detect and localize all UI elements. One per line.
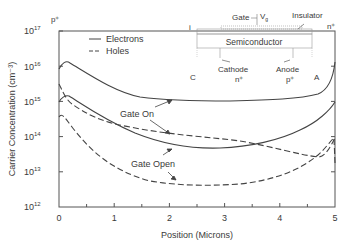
inset-label-cathode: Cathode — [218, 65, 249, 74]
svg-text:3: 3 — [222, 213, 227, 223]
inset-label-vg: Vg — [260, 12, 268, 22]
inset-label-c: C — [190, 73, 196, 82]
y-axis-label: Carrier Concentration (cm⁻³) — [7, 62, 17, 177]
inset-device-diagram: Gate Vg Insulator i Semiconductor Cathod… — [189, 11, 323, 84]
inset-label-i: i — [189, 23, 191, 32]
legend: Electrons Holes — [89, 34, 144, 56]
legend-label-electrons: Electrons — [106, 34, 144, 44]
y-tick-labels: 1012 1013 1014 1015 1016 1017 — [24, 25, 41, 212]
inset-label-cathode-type: n⁺ — [235, 75, 243, 84]
svg-text:0: 0 — [56, 213, 61, 223]
svg-text:2: 2 — [167, 213, 172, 223]
corner-label-left: p⁺ — [51, 15, 59, 24]
series-holes-gate-open — [59, 115, 335, 185]
svg-text:1: 1 — [112, 213, 117, 223]
svg-text:1015: 1015 — [24, 96, 41, 107]
svg-text:5: 5 — [332, 213, 337, 223]
annotation-gate-on: Gate On — [120, 109, 154, 119]
inset-label-semiconductor: Semiconductor — [226, 37, 283, 47]
inset-label-anode: Anode — [276, 65, 300, 74]
chart-canvas: 1012 1013 1014 1015 1016 1017 0 1 2 3 4 … — [0, 0, 354, 247]
x-ticks — [87, 203, 308, 207]
corner-label-right: n⁺ — [327, 22, 335, 31]
x-axis-label: Position (Microns) — [161, 230, 233, 240]
x-tick-labels: 0 1 2 3 4 5 — [56, 213, 337, 223]
inset-label-anode-type: p⁺ — [286, 75, 294, 84]
legend-label-holes: Holes — [106, 46, 130, 56]
series-electrons-gate-open — [59, 96, 335, 148]
svg-text:1017: 1017 — [24, 25, 41, 36]
svg-text:1016: 1016 — [24, 61, 41, 72]
inset-label-a: A — [314, 73, 320, 82]
inset-label-gate: Gate — [232, 13, 250, 22]
svg-text:4: 4 — [277, 213, 282, 223]
series-holes-gate-on — [59, 84, 335, 157]
inset-label-insulator: Insulator — [292, 11, 323, 20]
svg-text:1012: 1012 — [24, 201, 41, 212]
svg-text:1014: 1014 — [24, 131, 41, 142]
svg-text:1013: 1013 — [24, 166, 41, 177]
annotation-gate-open: Gate Open — [131, 159, 175, 169]
